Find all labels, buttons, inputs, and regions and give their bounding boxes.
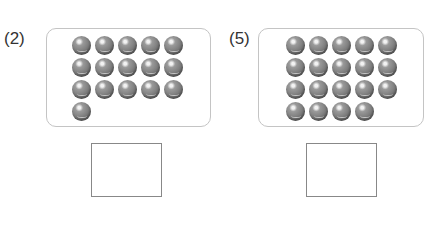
counter-ball (309, 80, 328, 99)
counter-ball (118, 80, 137, 99)
counter-ball (309, 58, 328, 77)
counter-ball (118, 36, 137, 55)
counter-ball (309, 36, 328, 55)
counter-ball (72, 58, 91, 77)
counter-ball (72, 102, 91, 121)
counter-ball (141, 58, 160, 77)
counter-ball (286, 36, 305, 55)
counter-ball (286, 80, 305, 99)
counter-ball (286, 58, 305, 77)
counter-ball (332, 80, 351, 99)
counter-ball (118, 58, 137, 77)
counter-ball (95, 58, 114, 77)
counter-ball (332, 58, 351, 77)
counter-ball (355, 102, 374, 121)
counter-ball (164, 58, 183, 77)
counter-ball (355, 36, 374, 55)
counter-ball (72, 80, 91, 99)
counter-ball (378, 58, 397, 77)
counter-ball (164, 36, 183, 55)
counter-ball (164, 80, 183, 99)
counter-ball (95, 80, 114, 99)
counter-ball (72, 36, 91, 55)
counting-frame (46, 28, 211, 127)
counter-ball (355, 80, 374, 99)
counter-ball (355, 58, 374, 77)
counter-ball (141, 36, 160, 55)
counter-ball (378, 36, 397, 55)
counter-ball (309, 102, 328, 121)
counter-ball (141, 80, 160, 99)
counter-ball (332, 102, 351, 121)
counter-ball (95, 36, 114, 55)
answer-box[interactable] (91, 143, 162, 197)
counter-ball (286, 102, 305, 121)
answer-box[interactable] (306, 143, 377, 197)
counter-ball (378, 80, 397, 99)
counter-ball (332, 36, 351, 55)
problem-label: (2) (4, 29, 25, 49)
problem-label: (5) (229, 29, 250, 49)
counting-frame (258, 28, 424, 127)
